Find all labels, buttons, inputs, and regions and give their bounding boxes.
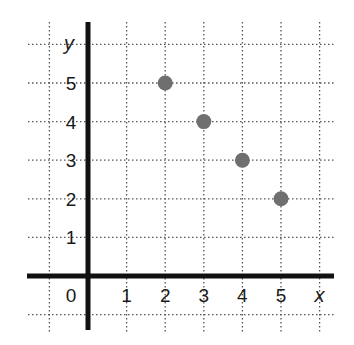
y-tick-label: 3 xyxy=(66,150,77,171)
tick-labels: 012345x12345y xyxy=(62,32,326,306)
data-point xyxy=(158,76,173,91)
data-point xyxy=(196,114,211,129)
y-tick-label: 5 xyxy=(66,73,77,94)
x-tick-label: 4 xyxy=(237,285,248,306)
x-tick-label: 2 xyxy=(160,285,171,306)
scatter-plot: 012345x12345y xyxy=(0,0,354,345)
x-axis-label: x xyxy=(314,284,326,306)
y-tick-label: 4 xyxy=(66,112,77,133)
x-tick-label: 1 xyxy=(121,285,132,306)
x-tick-label: 3 xyxy=(199,285,210,306)
axes xyxy=(27,22,334,330)
data-points xyxy=(158,76,289,207)
x-tick-label: 5 xyxy=(276,285,287,306)
y-tick-label: 1 xyxy=(66,227,77,248)
y-tick-label: 2 xyxy=(66,189,77,210)
x-tick-label: 0 xyxy=(66,285,77,306)
y-axis-label: y xyxy=(62,32,75,54)
data-point xyxy=(235,153,250,168)
data-point xyxy=(274,191,289,206)
